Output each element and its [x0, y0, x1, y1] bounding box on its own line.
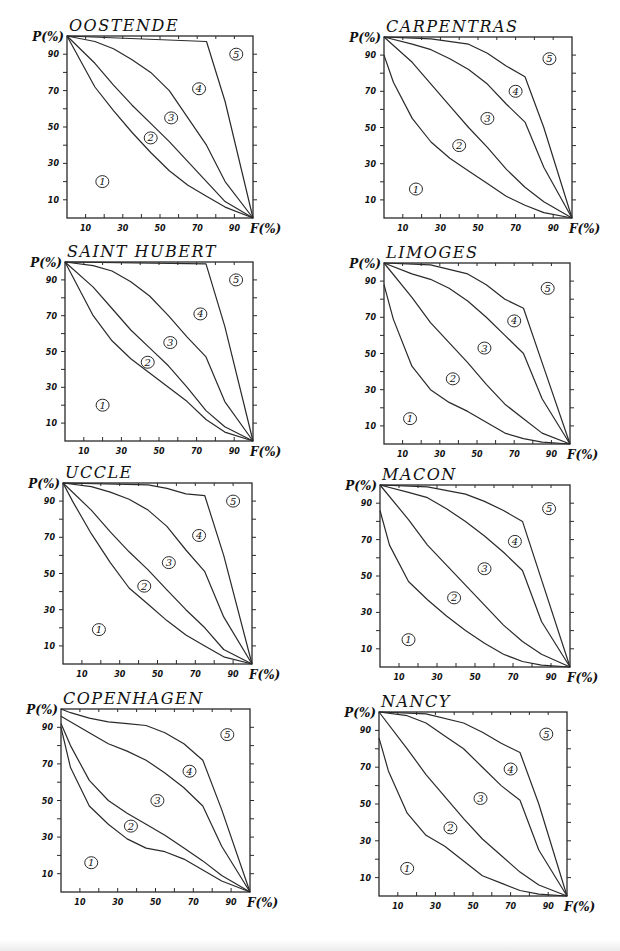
x-tick-label: 50 — [152, 670, 164, 679]
chart-panel-carpentras: CARPENTRAS10305070901030507090P(%)F(%)12… — [348, 17, 600, 236]
zone-boundary-line — [65, 262, 253, 441]
y-tick-label: 10 — [44, 642, 56, 651]
y-tick-label: 70 — [48, 87, 60, 96]
x-tick-label: 90 — [543, 902, 555, 911]
svg-text:3: 3 — [484, 113, 490, 124]
zone-label-3: 3 — [474, 792, 487, 804]
y-tick-label: 50 — [42, 797, 54, 806]
zone-label-2: 2 — [124, 820, 137, 832]
x-tick-label: 10 — [397, 450, 409, 459]
x-tick-label: 30 — [116, 447, 128, 456]
y-tick-label: 70 — [42, 760, 54, 769]
plot-frame — [65, 262, 253, 441]
x-tick-label: 70 — [190, 670, 202, 679]
x-axis-label: F(%) — [246, 896, 278, 910]
x-axis-label: F(%) — [249, 222, 281, 236]
climate-zone-figure: OOSTENDE10305070901030507090P(%)F(%)1234… — [0, 0, 620, 951]
zone-label-5: 5 — [543, 503, 556, 515]
x-tick-label: 70 — [510, 224, 522, 233]
y-tick-label: 90 — [44, 497, 56, 506]
zone-label-2: 2 — [448, 592, 461, 604]
y-tick-label: 30 — [365, 160, 377, 169]
chart-panel-macon: MACON10305070901030507090P(%)F(%)12345 — [344, 465, 598, 685]
y-axis-label: P(%) — [25, 703, 58, 717]
y-tick-label: 50 — [361, 572, 373, 581]
y-tick-label: 70 — [365, 313, 377, 322]
zone-label-3: 3 — [164, 337, 177, 349]
y-tick-label: 70 — [361, 536, 373, 545]
svg-text:5: 5 — [546, 503, 552, 514]
x-tick-label: 50 — [153, 447, 165, 456]
x-tick-label: 70 — [188, 898, 200, 907]
y-axis-label: P(%) — [344, 479, 377, 493]
zone-label-5: 5 — [227, 495, 240, 507]
x-tick-label: 90 — [226, 898, 238, 907]
svg-text:3: 3 — [154, 795, 160, 806]
svg-text:2: 2 — [127, 821, 134, 832]
x-tick-label: 50 — [471, 450, 483, 459]
svg-text:5: 5 — [230, 496, 236, 507]
zone-boundary-line — [63, 483, 252, 664]
svg-text:5: 5 — [544, 283, 550, 294]
chart-title: UCCLE — [65, 463, 133, 482]
zone-boundary-line — [65, 262, 253, 441]
x-tick-label: 90 — [229, 224, 241, 233]
x-tick-label: 30 — [434, 450, 446, 459]
svg-text:1: 1 — [407, 413, 413, 424]
x-tick-label: 50 — [472, 224, 484, 233]
y-axis-label: P(%) — [348, 257, 381, 271]
x-tick-label: 70 — [505, 902, 517, 911]
zone-label-5: 5 — [221, 729, 234, 741]
zone-label-4: 4 — [193, 83, 206, 95]
x-tick-label: 90 — [546, 450, 558, 459]
y-tick-label: 30 — [360, 837, 372, 846]
svg-text:3: 3 — [481, 563, 487, 574]
zone-label-1: 1 — [96, 399, 109, 411]
zone-label-5: 5 — [541, 282, 554, 294]
zone-label-4: 4 — [183, 765, 196, 777]
zone-label-5: 5 — [230, 274, 243, 286]
y-axis-label: P(%) — [31, 30, 64, 44]
y-tick-label: 90 — [365, 277, 377, 286]
chart-title: OOSTENDE — [69, 16, 179, 35]
zone-label-4: 4 — [508, 535, 521, 547]
zone-label-2: 2 — [444, 822, 457, 834]
x-tick-label: 10 — [80, 224, 92, 233]
svg-text:5: 5 — [233, 274, 239, 285]
x-axis-label: F(%) — [568, 222, 600, 236]
chart-panel-nancy: NANCY10305070901030507090P(%)F(%)12345 — [343, 692, 595, 914]
x-tick-label: 90 — [229, 447, 241, 456]
y-tick-label: 70 — [365, 87, 377, 96]
zone-label-2: 2 — [138, 580, 151, 592]
y-tick-label: 70 — [44, 533, 56, 542]
x-tick-label: 50 — [469, 673, 481, 682]
chart-panel-uccle: UCCLE10305070901030507090P(%)F(%)12345 — [27, 463, 280, 682]
svg-text:4: 4 — [196, 308, 203, 319]
y-tick-label: 10 — [42, 870, 54, 879]
zone-label-1: 1 — [85, 857, 98, 869]
x-tick-label: 30 — [114, 670, 126, 679]
zone-label-3: 3 — [151, 795, 164, 807]
x-axis-label: F(%) — [563, 900, 595, 914]
y-axis-label: P(%) — [27, 477, 60, 491]
y-tick-label: 90 — [46, 276, 58, 285]
zone-label-5: 5 — [540, 728, 553, 740]
svg-text:1: 1 — [404, 863, 410, 874]
svg-text:2: 2 — [450, 592, 457, 603]
x-tick-label: 30 — [117, 224, 129, 233]
x-tick-label: 70 — [509, 450, 521, 459]
y-tick-label: 10 — [46, 419, 58, 428]
zone-label-1: 1 — [96, 176, 109, 188]
zone-label-4: 4 — [193, 529, 206, 541]
zone-label-1: 1 — [404, 413, 417, 425]
svg-text:1: 1 — [96, 624, 102, 635]
svg-text:1: 1 — [88, 857, 94, 868]
x-tick-label: 10 — [76, 670, 88, 679]
y-tick-label: 50 — [44, 570, 56, 579]
chart-title: SAINT HUBERT — [67, 242, 217, 261]
x-tick-label: 70 — [192, 224, 204, 233]
y-tick-label: 30 — [44, 606, 56, 615]
zone-label-4: 4 — [194, 308, 207, 320]
svg-text:4: 4 — [185, 766, 192, 777]
x-tick-label: 10 — [392, 902, 404, 911]
